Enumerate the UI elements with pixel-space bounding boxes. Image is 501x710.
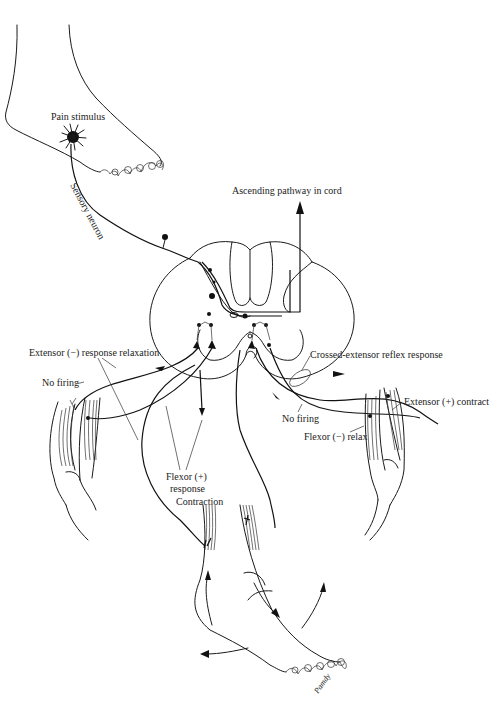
toe-arrow-icon	[320, 582, 326, 592]
stimulated-foot	[5, 25, 163, 176]
artist-signature: Pamdy	[312, 671, 333, 696]
arrow-down-icon	[199, 408, 205, 416]
dorsiflex-arrow-icon	[271, 608, 280, 618]
arrow-up-icon	[296, 201, 304, 214]
dorsal-root-ganglion-icon	[162, 234, 168, 240]
flexor-response-label-line2: response	[170, 483, 206, 494]
ascending-pathway-label: Ascending pathway in cord	[232, 185, 342, 196]
flexor-relax-label: Flexor (−) relax	[304, 431, 367, 443]
right-flexor-endplate-icon	[368, 414, 372, 418]
no-firing-left-label: No firing	[42, 377, 79, 388]
pain-stimulus-label: Pain stimulus	[51, 111, 105, 122]
contraction-label: Contraction	[176, 496, 223, 507]
left-motor-endplate-icon	[86, 416, 90, 420]
arrow-up-calf-icon	[205, 570, 211, 580]
motor-nerve-to-calf	[142, 365, 205, 546]
flexor-response-label-line1: Flexor (+)	[166, 471, 207, 483]
right-thigh	[365, 388, 404, 540]
crossed-extensor-label: Crossed-extensor reflex response	[310, 349, 443, 360]
extensor-relax-leader	[98, 358, 138, 440]
sensory-neuron-label: Sensory neuron	[68, 181, 107, 241]
flexor-response-leader	[166, 406, 202, 470]
pain-stimulus-icon	[60, 124, 86, 150]
reflex-diagram: Pain stimulus Sensory neuron	[0, 0, 501, 710]
flexor-motor-nerve-left	[90, 348, 212, 419]
motor-nerve-to-shin	[236, 350, 275, 528]
no-firing-right-label: No firing	[282, 413, 319, 424]
descending-arrow-line	[200, 370, 202, 410]
right-extensor-endplate-icon	[386, 394, 390, 398]
heel-arrow-icon	[200, 650, 209, 658]
arrow-up-calf-line	[206, 575, 212, 625]
left-thigh	[50, 398, 100, 540]
extensor-relax-label: Extensor (−) response relaxation	[29, 347, 159, 359]
toe-arrow-line	[302, 588, 323, 628]
heel-arrow-line	[206, 648, 248, 654]
arrow-right-icon	[333, 371, 345, 377]
extensor-contract-label: Extensor (+) contract	[404, 396, 489, 408]
dorsiflex-arrow-line	[254, 583, 276, 614]
arrow-down-right-icon	[272, 392, 280, 400]
